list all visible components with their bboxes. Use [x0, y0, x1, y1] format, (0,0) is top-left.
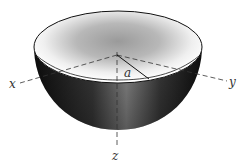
- z-axis-label: z: [111, 149, 119, 163]
- y-axis-label: y: [228, 75, 236, 89]
- hemisphere-diagram: x y z a: [0, 0, 242, 167]
- x-axis-label: x: [9, 77, 16, 91]
- radius-label: a: [124, 66, 131, 80]
